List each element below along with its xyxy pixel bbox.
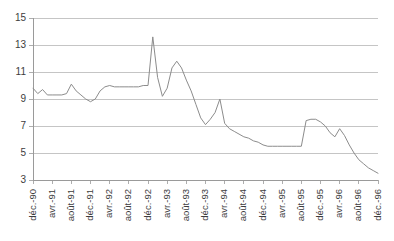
y-tick-label: 3 [20, 174, 26, 185]
plot-area: 3579111315 déc.-90avr.-91août-91déc.-91a… [0, 0, 394, 241]
x-tick-label: déc.-90 [27, 189, 38, 221]
x-tick-label: avr.-92 [103, 189, 114, 218]
x-tick-label: août-93 [180, 189, 191, 221]
x-tick-label: août-95 [295, 189, 306, 221]
x-tick-label: avr.-95 [276, 189, 287, 218]
x-tick-label: déc.-95 [314, 189, 325, 221]
gridlines [33, 18, 378, 180]
y-tick-label: 7 [20, 120, 26, 131]
x-tick-label: déc.-94 [257, 189, 268, 221]
x-tick-label: août-91 [65, 189, 76, 221]
y-axis-ticks: 3579111315 [15, 12, 33, 185]
y-tick-label: 15 [15, 12, 27, 23]
x-tick-label: déc.-91 [84, 189, 95, 221]
line-chart: 3579111315 déc.-90avr.-91août-91déc.-91a… [0, 0, 394, 241]
y-tick-label: 5 [20, 147, 26, 158]
x-tick-label: déc.-92 [142, 189, 153, 221]
y-tick-label: 9 [20, 93, 26, 104]
chart-canvas: 3579111315 déc.-90avr.-91août-91déc.-91a… [0, 0, 394, 241]
x-tick-label: avr.-91 [46, 189, 57, 218]
y-tick-label: 11 [16, 66, 27, 77]
x-tick-label: avr.-96 [333, 189, 344, 218]
x-tick-label: août-94 [237, 189, 248, 221]
x-axis-ticks [33, 180, 378, 184]
y-tick-label: 13 [15, 39, 27, 50]
x-tick-label: avr.-94 [218, 189, 229, 218]
x-tick-label: déc.-93 [199, 189, 210, 221]
x-tick-label: avr.-93 [161, 189, 172, 218]
x-axis-labels: déc.-90avr.-91août-91déc.-91avr.-92août-… [27, 189, 383, 221]
x-tick-label: déc.-96 [372, 189, 383, 221]
x-tick-label: août-96 [352, 189, 363, 221]
x-tick-label: août-92 [122, 189, 133, 221]
